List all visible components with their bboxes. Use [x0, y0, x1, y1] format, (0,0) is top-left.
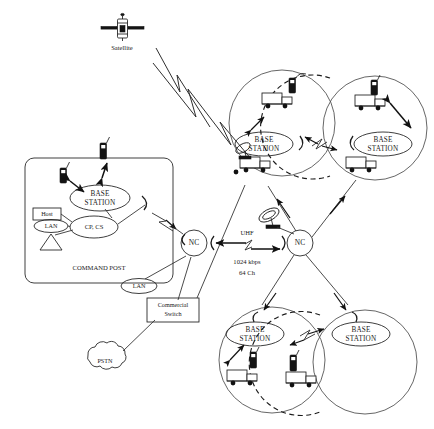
network-diagram: Satellite COMMAND POST BASE STATION Host… [0, 0, 434, 429]
link-dish-ncright [277, 227, 294, 234]
uhf-band-label: UHF [240, 229, 254, 236]
nc-left-label: NC [189, 238, 199, 247]
terminal-triangle-icon [40, 234, 62, 250]
commercial-switch-label-line1: Commercial [158, 301, 189, 308]
uhf-channels-label: 64 Ch [239, 269, 256, 276]
link-host-cpcs [61, 214, 72, 222]
cell-top-right-handset-icon [371, 75, 380, 95]
cell-bottom-right-bs-line2: STATION [346, 335, 377, 343]
satellite-radio-link-bolt-2 [156, 48, 210, 127]
satellite-radio-link-bolt [153, 63, 252, 160]
cell-top-left-handset-icon [289, 74, 306, 94]
cp-radio-arrow-2 [102, 163, 107, 178]
link-switch-pstn [123, 320, 155, 351]
satellite-dish-icon [257, 205, 282, 228]
commercial-switch-label-line2: Switch [164, 310, 182, 317]
cp-handset-icon-2 [100, 137, 110, 159]
satellite-link-endpoint [234, 170, 239, 175]
cell-bottom-left-bs-line1: BASE [245, 326, 265, 334]
cell-top-right-link-arc [350, 136, 354, 150]
cell-top-right-bs-line2: STATION [368, 145, 399, 153]
cell-top-left-bs-line2: STATION [249, 145, 280, 153]
cell-top-right-bs-line1: BASE [373, 136, 393, 144]
link-switch-ncright [197, 185, 245, 298]
cell-top-right-vehicle-icon-2 [346, 157, 376, 172]
cell-top-left-downlink-arrow [277, 199, 290, 218]
uhf-bolt [245, 240, 252, 250]
link-ncleft-lan [145, 256, 186, 279]
cp-radio-arrow-1 [70, 181, 84, 192]
link-ncright-cell-bl [262, 255, 294, 305]
cp-to-nc-bolt [152, 213, 173, 231]
cell-top-right-downlink-arrow [330, 196, 345, 214]
cell-top-left-vehicle-icon-1 [262, 93, 292, 108]
cell-top-right-radio-arrow [390, 103, 411, 128]
command-post-label: COMMAND POST [73, 264, 126, 271]
cp-base-station-label-line2: STATION [85, 199, 116, 207]
satellite-icon [101, 13, 144, 41]
pstn-cloud [88, 341, 126, 369]
uhf-rate-label: 1024 kbps [233, 258, 261, 265]
cell-top-left-link-arc [299, 136, 303, 150]
link-lan-cpcs [68, 226, 70, 227]
cell-bottom-right-handset-icon [290, 350, 299, 371]
cp-antenna-arc [142, 196, 147, 210]
cell-bottom-left-radio-arrow [230, 345, 244, 360]
cell-bottom-left-uplink-arc [253, 312, 258, 322]
cell-top-left-vehicle-icon-2 [240, 157, 270, 172]
cell-top-interlink-arrow-left [305, 137, 318, 144]
cp-base-station-label-line1: BASE [90, 190, 110, 198]
uhf-right-antenna-arc [282, 236, 285, 250]
link-ncright-cell-br [306, 255, 348, 305]
cell-bottom-left-boundary [219, 307, 325, 413]
cell-bottom-right-bs-line1: BASE [351, 326, 371, 334]
cell-top-right-vehicle-icon-1 [355, 95, 385, 110]
cell-bottom-interlink-arrow-left [290, 340, 304, 345]
cell-top-left-bs-line1: BASE [254, 136, 274, 144]
cell-bottom-right-vehicle-icon [286, 372, 316, 387]
cp-cs-label: CP, CS [85, 223, 104, 230]
host-label: Host [41, 210, 53, 217]
cell-bottom-right-uplink-arc [352, 312, 357, 322]
uhf-left-antenna-arc [211, 236, 214, 250]
link-terminal-cpcs [55, 230, 73, 235]
diagram-canvas: Satellite COMMAND POST BASE STATION Host… [0, 0, 434, 429]
nc-right-label: NC [295, 238, 305, 247]
cell-bottom-interlink-bolt [300, 330, 315, 340]
cp-lan-label: LAN [45, 222, 58, 229]
link-cpcs-antenna [118, 205, 145, 224]
external-lan-label: LAN [133, 282, 146, 289]
link-ncleft-switch [178, 257, 191, 300]
satellite-label: Satellite [111, 44, 133, 51]
link-ncleft-cp [172, 226, 183, 234]
pstn-label: PSTN [97, 357, 113, 364]
cell-top-left-radio-arrow [251, 117, 264, 130]
cp-handset-icon-1 [60, 162, 70, 183]
cell-bottom-left-bs-line2: STATION [240, 335, 271, 343]
